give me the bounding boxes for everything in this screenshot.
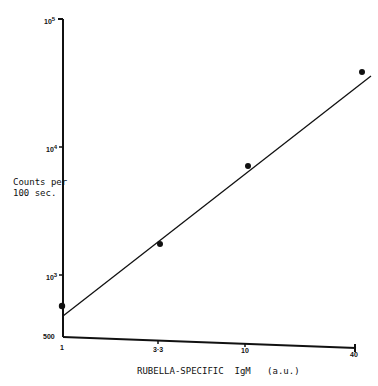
x-tick-label: 1: [60, 343, 64, 353]
x-tick-label: 3·3: [153, 345, 163, 355]
data-point: [245, 163, 251, 169]
y-tick-label: 104: [46, 142, 57, 155]
y-axis-label-line2: 100 sec.: [13, 188, 56, 198]
y-tick-label: 105: [44, 14, 55, 27]
x-tick-label: 40: [350, 350, 358, 360]
data-point: [59, 303, 65, 309]
x-tick-label: 10: [241, 346, 249, 356]
y-tick-label: 500: [43, 332, 55, 342]
data-point: [157, 241, 163, 247]
y-axis-label-line1: Counts per: [13, 177, 67, 187]
y-tick-label: 103: [46, 270, 57, 283]
data-point: [359, 69, 365, 75]
fit-line: [63, 76, 371, 316]
x-axis-label: RUBELLA-SPECIFIC IgM (a.u.): [137, 366, 300, 376]
chart-plot-area: [0, 0, 378, 386]
x-axis: [63, 337, 356, 348]
